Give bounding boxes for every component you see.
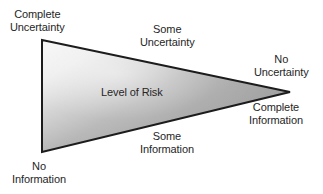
label-complete-information-line1: Complete — [249, 101, 303, 114]
label-some-information-line1: Some — [140, 130, 194, 143]
label-no-uncertainty: No Uncertainty — [254, 53, 309, 79]
label-some-information: Some Information — [140, 130, 194, 156]
label-no-information: No Information — [12, 160, 66, 186]
label-no-information-line1: No — [12, 160, 66, 173]
label-some-uncertainty-line1: Some — [140, 23, 195, 36]
label-no-uncertainty-line2: Uncertainty — [254, 66, 309, 79]
label-level-of-risk-line1: Level of Risk — [101, 86, 163, 99]
label-no-information-line2: Information — [12, 173, 66, 186]
risk-uncertainty-wedge-figure: Complete Uncertainty Some Uncertainty No… — [0, 0, 323, 194]
label-level-of-risk: Level of Risk — [101, 86, 163, 99]
label-some-uncertainty: Some Uncertainty — [140, 23, 195, 49]
label-complete-information-line2: Information — [249, 114, 303, 127]
label-some-uncertainty-line2: Uncertainty — [140, 36, 195, 49]
label-some-information-line2: Information — [140, 143, 194, 156]
label-complete-information: Complete Information — [249, 101, 303, 127]
label-complete-uncertainty-line1: Complete — [10, 8, 65, 21]
label-complete-uncertainty: Complete Uncertainty — [10, 8, 65, 34]
label-no-uncertainty-line1: No — [254, 53, 309, 66]
label-complete-uncertainty-line2: Uncertainty — [10, 21, 65, 34]
